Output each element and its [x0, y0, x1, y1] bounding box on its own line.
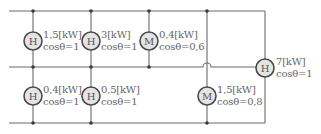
- junction-node: [31, 65, 35, 69]
- load-symbol: H: [29, 36, 38, 47]
- load-power: 0,4[kW]: [159, 29, 198, 40]
- load-power-factor: cosθ=0,8: [217, 96, 262, 107]
- load-power-factor: cosθ=1: [43, 96, 79, 107]
- junction-node: [205, 121, 209, 125]
- load-power-factor: cosθ=1: [101, 96, 137, 107]
- wiring-diagram: H 1,5[kW] cosθ=1 H 3[kW] cosθ=1 M 0,4[kW…: [0, 0, 321, 134]
- junction-node: [89, 121, 93, 125]
- junction-node: [205, 9, 209, 13]
- middle-bus: [9, 63, 256, 67]
- load-power-factor: cosθ=0,6: [159, 41, 204, 52]
- load-symbol: H: [87, 91, 96, 102]
- junction-node: [31, 9, 35, 13]
- load-power: 0,5[kW]: [101, 84, 140, 95]
- load-power-factor: cosθ=1: [43, 41, 79, 52]
- heater-load-h5: H 7[kW] cosθ=1: [256, 56, 312, 79]
- junction-node: [89, 65, 93, 69]
- load-symbol: M: [202, 91, 212, 102]
- heater-load-h3: H 0,4[kW] cosθ=1: [24, 84, 82, 107]
- load-power: 7[kW]: [276, 56, 306, 67]
- load-power: 1,5[kW]: [217, 84, 256, 95]
- motor-load-m2: M 1,5[kW] cosθ=0,8: [198, 84, 262, 107]
- motor-load-m1: M 0,4[kW] cosθ=0,6: [140, 29, 204, 52]
- load-symbol: M: [144, 36, 154, 47]
- heater-load-h4: H 0,5[kW] cosθ=1: [82, 84, 140, 107]
- load-power: 1,5[kW]: [43, 29, 82, 40]
- junction-node: [147, 65, 151, 69]
- load-symbol: H: [261, 63, 270, 74]
- load-symbol: H: [29, 91, 38, 102]
- junction-node: [89, 9, 93, 13]
- load-symbol: H: [87, 36, 96, 47]
- junction-node: [31, 121, 35, 125]
- junction-node: [147, 9, 151, 13]
- load-power: 0,4[kW]: [43, 84, 82, 95]
- load-power-factor: cosθ=1: [276, 68, 312, 79]
- heater-load-h1: H 1,5[kW] cosθ=1: [24, 29, 82, 52]
- load-power-factor: cosθ=1: [101, 41, 137, 52]
- load-power: 3[kW]: [101, 29, 131, 40]
- heater-load-h2: H 3[kW] cosθ=1: [82, 29, 137, 52]
